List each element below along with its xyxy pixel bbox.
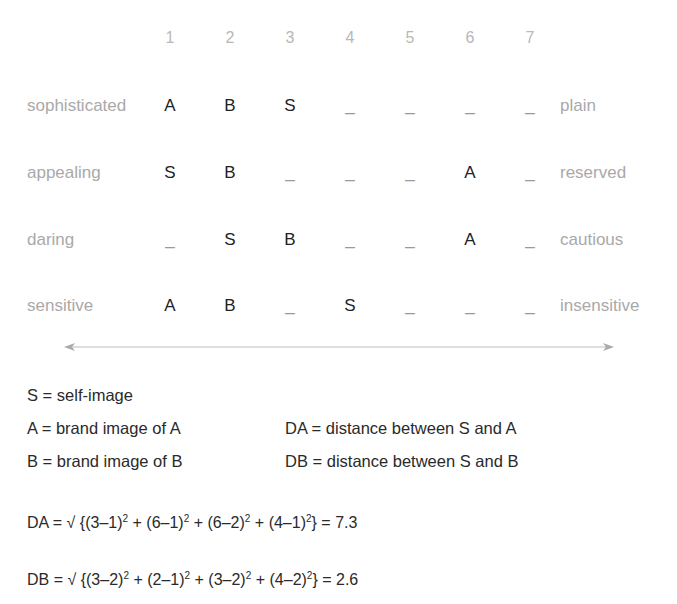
right-trait-label: insensitive	[560, 296, 639, 316]
scale-cell: _	[160, 230, 180, 250]
legend-self-image: S = self-image	[27, 386, 133, 405]
formula-term: (3–2)	[86, 571, 123, 588]
scale-cell: _	[520, 96, 540, 116]
scale-cell: S	[160, 163, 180, 183]
legend-distance-a: DA = distance between S and A	[285, 419, 517, 438]
formula-term: (6–1)	[146, 514, 183, 531]
formula-da: DA = √ {(3–1)2 + (6–1)2 + (6–2)2 + (4–1)…	[27, 514, 357, 532]
right-trait-label: cautious	[560, 230, 623, 250]
formula-result: } = 7.3	[312, 514, 358, 531]
formula-result: } = 2.6	[312, 571, 358, 588]
scale-cell: S	[220, 230, 240, 250]
column-number: 6	[460, 29, 480, 47]
formula-exponent: 2	[184, 513, 190, 524]
formula-term: (6–2)	[207, 514, 244, 531]
column-number: 5	[400, 29, 420, 47]
scale-cell: S	[340, 296, 360, 316]
scale-cell: A	[160, 96, 180, 116]
right-trait-label: plain	[560, 96, 596, 116]
scale-cell: A	[160, 296, 180, 316]
scale-cell: B	[220, 163, 240, 183]
legend-brand-b: B = brand image of B	[27, 452, 182, 471]
scale-cell: B	[220, 96, 240, 116]
formula-term: (4–1)	[269, 514, 306, 531]
left-trait-label: sensitive	[27, 296, 93, 316]
formula-exponent: 2	[185, 570, 191, 581]
scale-cell: A	[460, 230, 480, 250]
scale-cell: _	[400, 163, 420, 183]
scale-cell: B	[220, 296, 240, 316]
scale-cell: _	[520, 230, 540, 250]
left-trait-label: sophisticated	[27, 96, 126, 116]
column-number: 1	[160, 29, 180, 47]
column-number: 4	[340, 29, 360, 47]
scale-cell: _	[460, 96, 480, 116]
scale-cell: S	[280, 96, 300, 116]
scale-cell: _	[400, 230, 420, 250]
scale-cell: _	[400, 96, 420, 116]
scale-cell: _	[400, 296, 420, 316]
formula-exponent: 2	[246, 570, 252, 581]
scale-cell: _	[280, 296, 300, 316]
scale-cell: A	[460, 163, 480, 183]
right-trait-label: reserved	[560, 163, 626, 183]
formula-term: (3–2)	[208, 571, 245, 588]
scale-cell: _	[340, 163, 360, 183]
left-trait-label: appealing	[27, 163, 101, 183]
formula-exponent: 2	[123, 570, 129, 581]
scale-cell: _	[280, 163, 300, 183]
scale-cell: _	[460, 296, 480, 316]
column-number: 7	[520, 29, 540, 47]
scale-cell: _	[340, 230, 360, 250]
formula-exponent: 2	[123, 513, 129, 524]
column-number: 3	[280, 29, 300, 47]
formula-term: (2–1)	[147, 571, 184, 588]
scale-cell: _	[520, 163, 540, 183]
scale-cell: _	[340, 96, 360, 116]
formula-term: (4–2)	[270, 571, 307, 588]
legend-distance-b: DB = distance between S and B	[285, 452, 518, 471]
formula-exponent: 2	[245, 513, 251, 524]
formula-term: (3–1)	[85, 514, 122, 531]
scale-cell: B	[280, 230, 300, 250]
left-trait-label: daring	[27, 230, 74, 250]
formula-db: DB = √ {(3–2)2 + (2–1)2 + (3–2)2 + (4–2)…	[27, 571, 358, 589]
scale-cell: _	[520, 296, 540, 316]
column-number: 2	[220, 29, 240, 47]
legend-brand-a: A = brand image of A	[27, 419, 181, 438]
formula-prefix: DB = √ {	[27, 571, 86, 588]
formula-prefix: DA = √ {	[27, 514, 85, 531]
